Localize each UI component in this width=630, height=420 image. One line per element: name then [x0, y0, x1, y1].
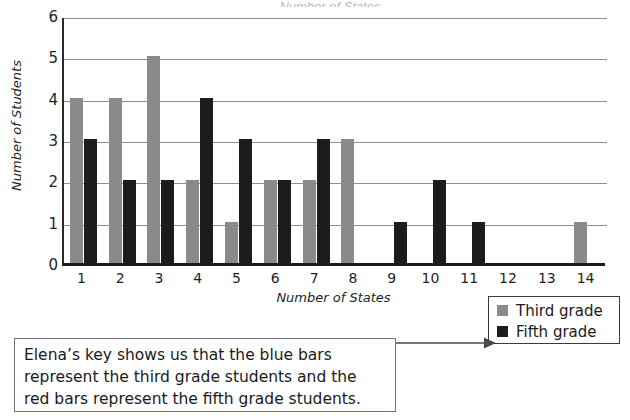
x-tick-label: 5 — [217, 270, 256, 286]
legend-label-third-grade: Third grade — [516, 302, 603, 320]
y-tick-label: 2 — [32, 175, 58, 190]
caption-line-1: Elena’s key shows us that the blue bars — [24, 344, 386, 366]
bar-third-grade-2 — [109, 98, 122, 263]
bar-third-grade-1 — [70, 98, 83, 263]
x-tick-label: 11 — [450, 270, 489, 286]
x-tick-label: 14 — [566, 270, 605, 286]
bar-fifth-grade-1 — [84, 139, 97, 263]
bar-fifth-grade-9 — [394, 222, 407, 263]
bar-third-grade-4 — [186, 180, 199, 263]
x-tick-label: 8 — [334, 270, 373, 286]
bar-fifth-grade-2 — [123, 180, 136, 263]
bar-group — [142, 18, 181, 263]
bar-group — [374, 18, 413, 263]
legend-swatch-fifth-grade-icon — [497, 326, 508, 337]
legend-item-fifth-grade: Fifth grade — [497, 321, 619, 342]
bar-group — [529, 18, 568, 263]
caption-line-3: red bars represent the fifth grade stude… — [24, 388, 386, 410]
bar-group — [258, 18, 297, 263]
legend-label-fifth-grade: Fifth grade — [516, 323, 597, 341]
x-tick-label: 4 — [178, 270, 217, 286]
bar-fifth-grade-11 — [472, 222, 485, 263]
x-tick-label: 13 — [527, 270, 566, 286]
bar-group — [103, 18, 142, 263]
bar-fifth-grade-10 — [433, 180, 446, 263]
legend-item-third-grade: Third grade — [497, 300, 619, 321]
bar-group — [452, 18, 491, 263]
x-tick-label: 1 — [62, 270, 101, 286]
x-tick-label: 9 — [372, 270, 411, 286]
y-tick-label: 4 — [32, 93, 58, 108]
bar-fifth-grade-3 — [161, 180, 174, 263]
x-tick-label: 12 — [489, 270, 528, 286]
callout-arrow-icon — [396, 332, 496, 354]
bar-third-grade-8 — [341, 139, 354, 263]
bar-fifth-grade-7 — [317, 139, 330, 263]
x-tick-label: 10 — [411, 270, 450, 286]
bar-group — [568, 18, 607, 263]
x-tick-label: 7 — [295, 270, 334, 286]
y-tick-label: 6 — [32, 10, 58, 25]
y-tick-label: 3 — [32, 134, 58, 149]
bar-third-grade-6 — [264, 180, 277, 263]
x-tick-label: 2 — [101, 270, 140, 286]
bar-fifth-grade-5 — [239, 139, 252, 263]
y-tick-label: 5 — [32, 51, 58, 66]
bar-fifth-grade-6 — [278, 180, 291, 263]
y-tick-label: 1 — [32, 217, 58, 232]
bar-fifth-grade-4 — [200, 98, 213, 263]
bar-group — [219, 18, 258, 263]
bar-third-grade-3 — [147, 56, 160, 263]
bar-third-grade-5 — [225, 222, 238, 263]
caption-line-2: represent the third grade students and t… — [24, 366, 386, 388]
x-axis-ticks: 1234567891011121314 — [62, 270, 605, 290]
bar-chart: Number of Students 0123456 1234567891011… — [0, 0, 630, 300]
chart-legend: Third grade Fifth grade — [488, 296, 620, 344]
y-tick-label: 0 — [32, 258, 58, 273]
bar-group — [297, 18, 336, 263]
bar-group — [180, 18, 219, 263]
bar-third-grade-7 — [303, 180, 316, 263]
bar-third-grade-14 — [574, 222, 587, 263]
bar-group — [491, 18, 530, 263]
x-tick-label: 3 — [140, 270, 179, 286]
y-axis-ticks: 0123456 — [28, 0, 58, 290]
y-axis-label: Number of Students — [9, 46, 24, 206]
x-tick-label: 6 — [256, 270, 295, 286]
bar-group — [336, 18, 375, 263]
bar-group — [413, 18, 452, 263]
bar-group — [64, 18, 103, 263]
legend-swatch-third-grade-icon — [497, 305, 508, 316]
caption-callout: Elena’s key shows us that the blue bars … — [14, 338, 396, 412]
plot-area — [62, 18, 605, 266]
